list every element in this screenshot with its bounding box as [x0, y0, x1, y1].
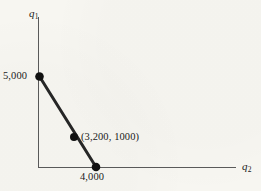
y-axis-label-text: q [29, 7, 35, 19]
y-axis-label-subscript: 1 [35, 12, 39, 21]
x-axis-label-subscript: 2 [248, 165, 252, 174]
y-axis-label: q1 [29, 8, 38, 19]
x-axis-label-text: q [242, 160, 248, 172]
interior-point-annotation: (3,200, 1000) [81, 132, 139, 143]
budget-line [40, 77, 97, 168]
plot-canvas [0, 0, 261, 191]
data-point-intercept-q2 [92, 163, 101, 172]
data-point-intercept-q1 [35, 72, 44, 81]
y-axis-tick-label-5000: 5,000 [3, 71, 27, 82]
x-axis-tick-label-4000: 4,000 [80, 172, 104, 183]
plot-figure: q1 q2 5,000 4,000 (3,200, 1000) [0, 0, 261, 191]
data-point-interior [70, 133, 78, 141]
x-axis-label: q2 [242, 161, 251, 172]
